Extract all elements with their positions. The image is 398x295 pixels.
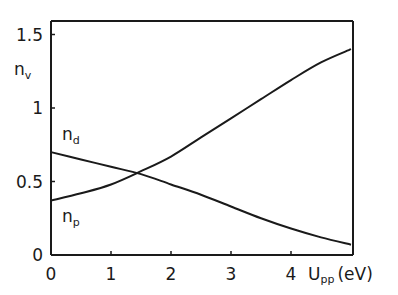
x-tick-label: 1	[106, 264, 117, 284]
x-tick-label: 2	[166, 264, 177, 284]
chart: 01234 00.511.5 nv nd np Upp(eV)	[0, 0, 398, 295]
series-n-d-line	[51, 152, 351, 245]
x-tick-label: 4	[286, 264, 297, 284]
x-tick-label: 3	[226, 264, 237, 284]
series-n-p-label: np	[62, 206, 80, 229]
y-tick-label: 0	[32, 245, 43, 265]
axis-ticks	[51, 35, 291, 256]
y-tick-label: 0.5	[16, 172, 43, 192]
y-tick-label: 1.5	[16, 25, 43, 45]
x-tick-labels: 01234	[46, 264, 297, 284]
x-axis-label: Upp(eV)	[308, 264, 373, 286]
series-n-p-line	[51, 49, 351, 200]
x-tick-label: 0	[46, 264, 57, 284]
y-axis-label: nv	[14, 59, 32, 82]
plot-frame	[51, 21, 353, 255]
y-tick-label: 1	[32, 98, 43, 118]
series-n-d-label: nd	[62, 124, 80, 147]
